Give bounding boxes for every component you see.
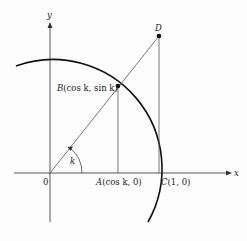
point-C-coords: (1, 0) (168, 177, 191, 187)
point-A-letter: A (95, 177, 102, 187)
origin-label: 0 (43, 177, 48, 187)
y-axis-label: y (46, 10, 52, 20)
x-axis-label: x (234, 168, 239, 178)
point-B-label: B(cos k, sin k) (56, 83, 118, 93)
angle-label: k (70, 156, 75, 166)
y-axis-arrow-icon (48, 22, 53, 28)
x-axis-arrow-icon (226, 171, 232, 176)
point-D-label: D (154, 23, 162, 33)
diagram-svg: y x 0 k D B(cos k, sin k) A(cos k, 0) C(… (0, 0, 247, 241)
point-A-coords: (cos k, 0) (102, 177, 142, 187)
point-B-letter: B (56, 83, 63, 93)
point-C-label: C(1, 0) (161, 177, 190, 187)
point-B-coords: (cos k, sin k) (63, 83, 118, 93)
unit-circle-diagram: y x 0 k D B(cos k, sin k) A(cos k, 0) C(… (0, 0, 247, 241)
point-A-label: A(cos k, 0) (95, 177, 142, 187)
ray-OD (50, 36, 159, 173)
point-D (157, 34, 162, 39)
